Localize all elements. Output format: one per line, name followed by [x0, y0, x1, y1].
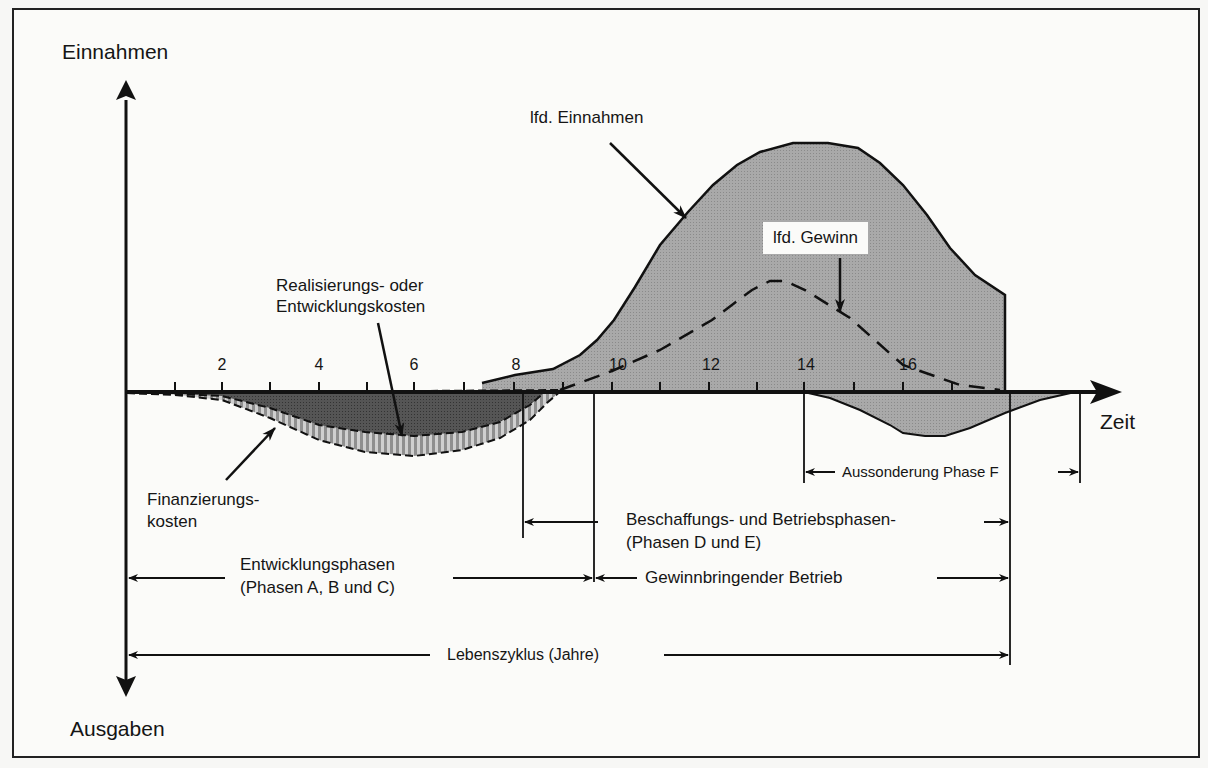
phase-f-label: Aussonderung Phase F: [842, 462, 999, 482]
lifecycle-label: Lebenszyklus (Jahre): [447, 645, 599, 665]
phase-dev-label-line2: (Phasen A, B und C): [240, 578, 395, 598]
fin-cost-label-line1: Finanzierungs-: [147, 490, 259, 510]
tick-label: 10: [609, 356, 627, 374]
phase-de-label-line1: Beschaffungs- und Betriebsphasen-: [626, 510, 896, 530]
y-axis-label-bottom: Ausgaben: [70, 717, 165, 741]
phase-dev-label-line1: Entwicklungsphasen: [240, 555, 395, 575]
y-axis-up-arrow-icon: [116, 80, 136, 100]
tick-label: 8: [512, 356, 521, 374]
revenue-label: lfd. Einnahmen: [530, 108, 643, 128]
tick-label: 12: [702, 356, 720, 374]
x-axis-label: Zeit: [1100, 410, 1135, 434]
tick-label: 6: [410, 356, 419, 374]
dev-cost-label-line1: Realisierungs- oder: [276, 276, 423, 296]
tick-label: 16: [899, 356, 917, 374]
dev-cost-label-line2: Entwicklungskosten: [276, 297, 425, 317]
profit-label: lfd. Gewinn: [763, 222, 868, 254]
revenue-area: [482, 143, 1005, 392]
tick-label: 2: [218, 356, 227, 374]
y-axis-label-top: Einnahmen: [62, 40, 168, 64]
tick-label: 4: [315, 356, 324, 374]
tick-label: 14: [797, 356, 815, 374]
fin-cost-label-line2: kosten: [147, 512, 197, 532]
phase-de-label-line2: (Phasen D und E): [626, 533, 761, 553]
phase-profit-label: Gewinnbringender Betrieb: [645, 568, 843, 588]
disposal-cost-area: [804, 392, 1075, 436]
